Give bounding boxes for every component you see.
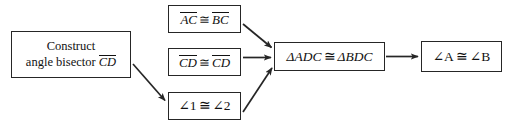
triangles-statement: ΔADC≅ΔBDC (287, 49, 373, 65)
construct-line-2-prefix: angle bisector (26, 55, 96, 69)
triangle-bdc: ΔBDC (338, 49, 373, 64)
angles-statement: ∠A≅∠B (433, 49, 490, 65)
angle-2: ∠2 (213, 98, 231, 113)
node-construct-angle-bisector: Construct angle bisector CD (11, 31, 131, 78)
construct-line-2: angle bisector CD (22, 54, 120, 70)
construct-line-1: Construct (43, 39, 100, 54)
node-cd-congruent-cd: CD≅CD (168, 48, 241, 76)
node-angle1-congruent-angle2: ∠1≅∠2 (168, 92, 241, 120)
node-angle-a-congruent-angle-b: ∠A≅∠B (421, 41, 502, 72)
angle1-angle2-statement: ∠1≅∠2 (178, 98, 230, 114)
segment-cd: CD (99, 55, 116, 69)
edge-acbc-to-triangles (243, 24, 272, 48)
segment-cd-right: CD (212, 55, 230, 70)
edge-construct-to-angle1angle2 (133, 64, 165, 101)
ac-bc-statement: AC≅BC (180, 11, 228, 27)
congruent-symbol: ≅ (197, 12, 212, 27)
clipped-page-text: attributes of (2, 0, 72, 5)
node-ac-congruent-bc: AC≅BC (168, 5, 241, 33)
node-triangle-adc-congruent-triangle-bdc: ΔADC≅ΔBDC (274, 42, 385, 71)
angle-b: ∠B (470, 49, 490, 64)
congruent-symbol: ≅ (197, 55, 212, 70)
congruent-symbol: ≅ (322, 49, 338, 64)
flow-proof-diagram: attributes of Construct (0, 0, 507, 126)
cd-cd-statement: CD≅CD (179, 54, 230, 70)
congruent-symbol: ≅ (197, 98, 213, 113)
segment-ac: AC (180, 12, 197, 27)
segment-cd-left: CD (179, 55, 197, 70)
triangle-adc: ΔADC (287, 49, 322, 64)
angle-1: ∠1 (178, 98, 196, 113)
congruent-symbol: ≅ (454, 49, 470, 64)
angle-a: ∠A (433, 49, 454, 64)
segment-bc: BC (212, 12, 229, 27)
edge-angle1angle2-to-triangles (243, 68, 272, 112)
